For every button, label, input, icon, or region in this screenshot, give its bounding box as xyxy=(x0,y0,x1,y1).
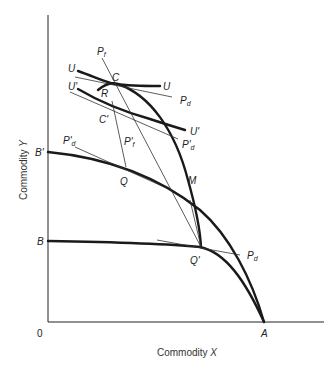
label-B: B xyxy=(37,236,44,247)
label-Pf: Pf xyxy=(97,46,107,58)
label-origin: 0 xyxy=(37,328,43,339)
label-M: M xyxy=(188,175,197,186)
label-Qprime: Q' xyxy=(190,255,201,266)
label-C: C xyxy=(112,72,120,83)
label-A: A xyxy=(260,328,268,339)
label-Pfprime: P'f xyxy=(124,136,136,148)
price-line-Pdprime-lower xyxy=(75,147,162,186)
trade-diagram: Pf U C U R U' Pd C' U' P'f P'd P'd B' Q … xyxy=(0,0,336,369)
label-Q: Q xyxy=(120,176,128,187)
label-Pd-lower: Pd xyxy=(247,250,259,262)
label-Pd-upper: Pd xyxy=(180,95,192,107)
label-R: R xyxy=(101,88,108,99)
label-U-right: U xyxy=(163,81,171,92)
production-frontier-BprimeA xyxy=(48,152,264,322)
y-axis-title: Commodity Y xyxy=(18,139,29,200)
axes xyxy=(48,15,324,322)
label-Uprime-right: U' xyxy=(190,126,200,137)
label-Pdprime-lower: P'd xyxy=(63,135,77,147)
x-axis-title: Commodity X xyxy=(157,347,217,358)
label-Pdprime-upper: P'd xyxy=(182,139,196,151)
label-Bprime: B' xyxy=(35,147,45,158)
label-U-left: U xyxy=(68,63,76,74)
label-Cprime: C' xyxy=(99,114,109,125)
price-line-Pdprime-upper xyxy=(70,92,178,139)
indifference-curve-Uprime xyxy=(78,89,185,130)
label-Uprime-left: U' xyxy=(68,81,78,92)
